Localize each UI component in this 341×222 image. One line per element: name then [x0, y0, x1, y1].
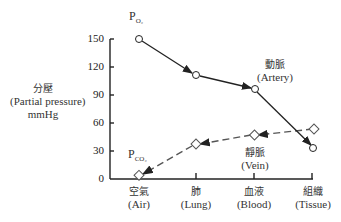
pco2-label: PCO₂ [128, 148, 147, 166]
po2-label: PO₂ [129, 10, 143, 28]
ytick-60: 60 [80, 116, 104, 128]
po2-markers [136, 36, 317, 152]
vein-label: 靜脈 (Vein) [230, 146, 280, 172]
pco2-series [143, 129, 313, 174]
ytick-120: 120 [80, 60, 104, 72]
artery-label: 動脈 (Artery) [250, 58, 300, 84]
ytick-30: 30 [80, 144, 104, 156]
y-axis-label: 分壓 (Partial pressure) mmHg [10, 82, 76, 121]
po2-series [142, 41, 311, 145]
pco2-markers [134, 124, 319, 180]
ytick-0: 0 [80, 172, 104, 184]
category-lung: 肺 (Lung) [171, 185, 221, 211]
category-blood: 血液 (Blood) [229, 185, 279, 211]
category-air: 空氣 (Air) [114, 185, 164, 211]
ytick-150: 150 [80, 32, 104, 44]
category-tissue: 組織 (Tissue) [285, 185, 341, 211]
